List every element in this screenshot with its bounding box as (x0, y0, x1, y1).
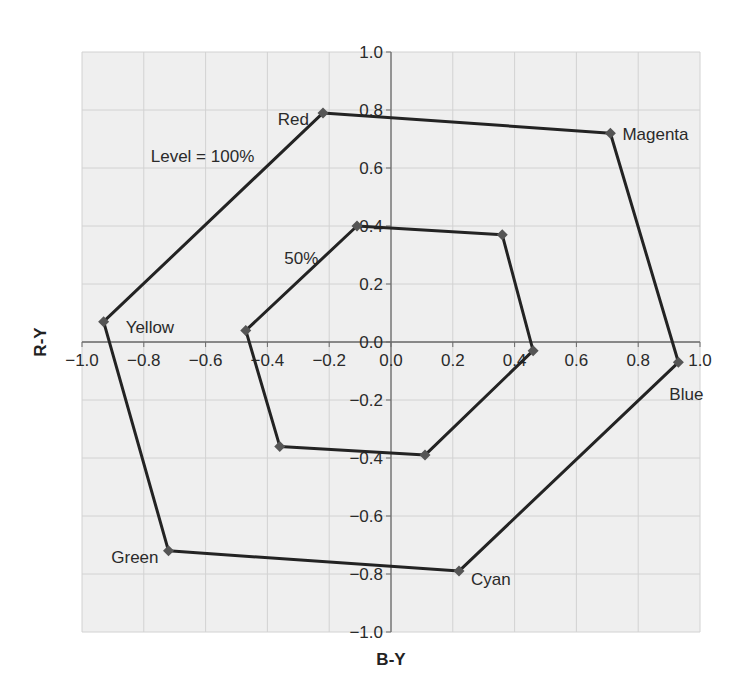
x-tick-label: 0.2 (441, 351, 465, 370)
point-label: Magenta (622, 125, 689, 144)
point-label: Level = 100% (151, 147, 255, 166)
point-label: Red (278, 110, 309, 129)
x-tick-label: 0.6 (565, 351, 589, 370)
y-tick-label: −1.0 (349, 623, 383, 642)
point-label: Blue (669, 385, 703, 404)
x-axis-title: B-Y (376, 650, 406, 669)
point-label: 50% (284, 249, 318, 268)
y-tick-label: 0.0 (359, 333, 383, 352)
y-axis-title: R-Y (31, 327, 50, 357)
y-tick-label: 0.2 (359, 275, 383, 294)
x-tick-label: 0.8 (626, 351, 650, 370)
point-label: Cyan (471, 570, 511, 589)
y-tick-label: −0.6 (349, 507, 383, 526)
x-tick-label: 0.0 (379, 351, 403, 370)
point-label: Green (111, 548, 158, 567)
x-tick-label: −0.6 (189, 351, 223, 370)
y-tick-label: 0.6 (359, 159, 383, 178)
point-label: Yellow (126, 318, 175, 337)
y-tick-label: −0.2 (349, 391, 383, 410)
x-tick-label: 1.0 (688, 351, 712, 370)
x-tick-label: −1.0 (65, 351, 99, 370)
y-tick-label: 1.0 (359, 43, 383, 62)
x-tick-label: −0.8 (127, 351, 161, 370)
y-tick-label: −0.8 (349, 565, 383, 584)
chrominance-hexagon-chart: −1.0−0.8−0.6−0.4−0.20.00.20.40.60.81.0 −… (0, 0, 743, 694)
x-tick-label: −0.2 (312, 351, 346, 370)
